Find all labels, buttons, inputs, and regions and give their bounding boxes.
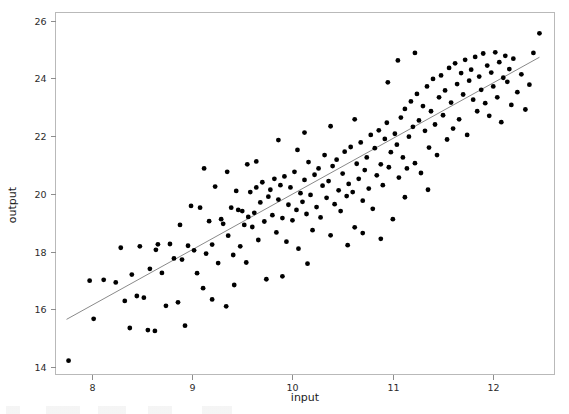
data-point: [395, 58, 400, 63]
data-point: [376, 128, 381, 133]
data-point: [332, 202, 337, 207]
data-point: [491, 84, 496, 89]
data-point: [178, 223, 183, 228]
data-point: [234, 189, 239, 194]
data-point: [244, 260, 249, 265]
data-point: [344, 194, 349, 199]
data-point: [372, 146, 377, 151]
data-point: [254, 185, 259, 190]
plot-background: [0, 0, 569, 414]
data-point: [324, 195, 329, 200]
data-point: [153, 329, 158, 334]
data-point: [210, 297, 215, 302]
data-point: [127, 326, 132, 331]
data-point: [515, 90, 520, 95]
data-point: [483, 101, 488, 106]
data-point: [362, 168, 367, 173]
data-point: [352, 225, 357, 230]
data-point: [505, 79, 510, 84]
data-point: [345, 243, 350, 248]
data-point: [186, 243, 191, 248]
data-point: [523, 107, 528, 112]
data-point: [519, 72, 524, 77]
data-point: [221, 221, 226, 226]
data-point: [419, 171, 424, 176]
data-point: [396, 175, 401, 180]
data-point: [493, 50, 498, 55]
data-point: [407, 134, 412, 139]
data-point: [388, 150, 393, 155]
data-point: [421, 104, 426, 109]
data-point: [385, 80, 390, 85]
y-tick-label: 24: [34, 73, 46, 84]
data-point: [250, 225, 255, 230]
data-point: [160, 270, 165, 275]
data-point: [280, 216, 285, 221]
data-point: [485, 63, 490, 68]
data-point: [415, 92, 420, 97]
data-point: [314, 205, 319, 210]
data-point: [392, 131, 397, 136]
data-point: [242, 223, 247, 228]
data-point: [511, 56, 516, 61]
data-point: [118, 245, 123, 250]
data-point: [268, 187, 273, 192]
data-point: [350, 190, 355, 195]
data-point: [507, 67, 512, 72]
data-point: [471, 97, 476, 102]
data-point: [439, 73, 444, 78]
data-point: [425, 84, 430, 89]
data-point: [258, 200, 263, 205]
data-point: [207, 219, 212, 224]
data-point: [276, 138, 281, 143]
data-point: [426, 187, 431, 192]
data-point: [380, 183, 385, 188]
data-point: [445, 137, 450, 142]
data-point: [210, 242, 215, 247]
data-point: [168, 242, 173, 247]
x-tick-label: 8: [89, 382, 95, 393]
data-point: [266, 194, 271, 199]
data-point: [129, 272, 134, 277]
data-point: [122, 298, 127, 303]
data-point: [295, 148, 300, 153]
data-point: [429, 109, 434, 114]
data-point: [348, 145, 353, 150]
data-point: [202, 166, 207, 171]
data-point: [427, 145, 432, 150]
data-point: [413, 161, 418, 166]
data-point: [403, 195, 408, 200]
data-point: [320, 183, 325, 188]
data-point: [270, 213, 275, 218]
data-point: [245, 162, 250, 167]
y-tick-label: 26: [34, 16, 46, 27]
data-point: [216, 261, 221, 266]
data-point: [286, 202, 291, 207]
data-point: [473, 55, 478, 60]
data-point: [145, 328, 150, 333]
data-point: [360, 231, 365, 236]
data-point: [467, 78, 472, 83]
data-point: [501, 75, 506, 80]
data-point: [469, 67, 474, 72]
data-point: [330, 164, 335, 169]
x-tick-label: 12: [487, 382, 499, 393]
data-point: [382, 137, 387, 142]
data-point: [290, 218, 295, 223]
data-point: [229, 205, 234, 210]
data-point: [238, 244, 243, 249]
data-point: [340, 171, 345, 176]
data-point: [226, 233, 231, 238]
x-tick-label: 9: [189, 382, 195, 393]
data-point: [213, 184, 218, 189]
data-point: [358, 140, 363, 145]
data-point: [499, 120, 504, 125]
data-point: [276, 197, 281, 202]
data-point: [141, 295, 146, 300]
data-point: [342, 149, 347, 154]
data-point: [252, 210, 257, 215]
data-point: [394, 142, 399, 147]
data-point: [527, 82, 532, 87]
data-point: [360, 198, 365, 203]
data-point: [147, 266, 152, 271]
